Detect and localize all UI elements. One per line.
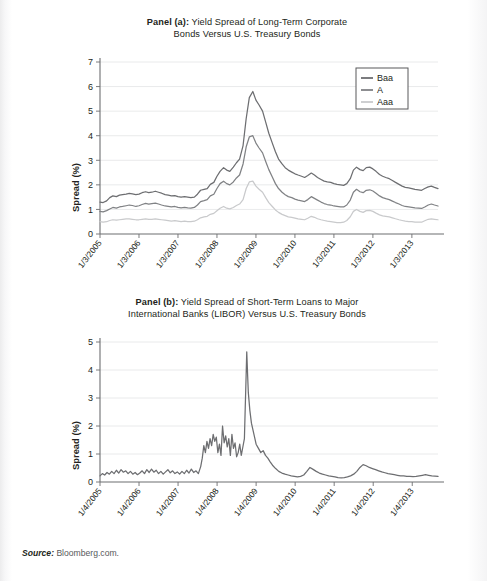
x-tick-label: 1/3/2013: [387, 238, 415, 270]
x-tick-label: 1/4/2008: [193, 486, 221, 518]
panel-a-svg: 012345671/3/20051/3/20061/3/20071/3/2008…: [0, 52, 460, 292]
y-tick-label: 3: [88, 156, 93, 166]
y-tick-label: 0: [88, 229, 93, 239]
y-tick-label: 5: [88, 337, 93, 347]
y-tick-label: 4: [88, 131, 93, 141]
panel-b-title-text1: Yield Spread of Short-Term Loans to Majo…: [178, 297, 358, 307]
panel-a-plot-area: 012345671/3/20051/3/20061/3/20071/3/2008…: [0, 52, 460, 292]
panel-a-title-line1: Panel (a): Yield Spread of Long-Term Cor…: [147, 17, 347, 27]
panel-a-title-text1: Yield Spread of Long-Term Corporate: [189, 17, 347, 27]
x-tick-label: 1/3/2007: [154, 238, 182, 270]
legend-label-a: A: [377, 85, 383, 95]
x-tick-label: 1/3/2006: [115, 238, 143, 270]
y-tick-label: 1: [88, 205, 93, 215]
series-line-libor-spread: [100, 352, 438, 478]
panel-b-title: Panel (b): Yield Spread of Short-Term Lo…: [62, 296, 432, 321]
x-tick-label: 1/3/2009: [232, 238, 260, 270]
x-tick-label: 1/4/2005: [76, 486, 104, 518]
y-tick-label: 3: [88, 393, 93, 403]
legend-label-baa: Baa: [377, 73, 393, 83]
series-line-a: [100, 136, 438, 212]
x-tick-label: 1/3/2011: [310, 238, 338, 270]
x-tick-label: 1/4/2011: [310, 486, 338, 518]
y-tick-label: 1: [88, 449, 93, 459]
y-tick-label: 6: [88, 82, 93, 92]
y-tick-label: 7: [88, 57, 93, 67]
x-tick-label: 1/3/2008: [193, 238, 221, 270]
panel-a-title-line2: Bonds Versus U.S. Treasury Bonds: [174, 29, 321, 39]
y-tick-label: 2: [88, 180, 93, 190]
panel-b-title-line1: Panel (b): Yield Spread of Short-Term Lo…: [136, 297, 359, 307]
panel-a-label: Panel (a):: [147, 17, 189, 27]
x-tick-label: 1/4/2009: [232, 486, 260, 518]
panel-b-title-line2: International Banks (LIBOR) Versus U.S. …: [128, 309, 366, 319]
panel-b-label: Panel (b):: [136, 297, 179, 307]
x-tick-label: 1/4/2010: [271, 486, 299, 518]
source-value: Bloomberg.com.: [56, 548, 119, 558]
figure-container: Panel (a): Yield Spread of Long-Term Cor…: [0, 0, 487, 581]
x-tick-label: 1/4/2007: [154, 486, 182, 518]
x-tick-label: 1/4/2013: [388, 486, 416, 518]
panel-a-title: Panel (a): Yield Spread of Long-Term Cor…: [62, 16, 432, 41]
series-line-aaa: [100, 181, 438, 223]
source-label: Source:: [22, 548, 54, 558]
panel-b-plot-area: 0123451/4/20051/4/20061/4/20071/4/20081/…: [0, 330, 460, 545]
legend-label-aaa: Aaa: [377, 97, 393, 107]
x-tick-label: 1/3/2005: [76, 238, 104, 270]
y-tick-label: 0: [88, 477, 93, 487]
page-background: Panel (a): Yield Spread of Long-Term Cor…: [0, 0, 487, 581]
y-tick-label: 4: [88, 365, 93, 375]
x-tick-label: 1/4/2012: [349, 486, 377, 518]
x-tick-label: 1/3/2012: [349, 238, 377, 270]
y-tick-label: 2: [88, 421, 93, 431]
x-tick-label: 1/3/2010: [271, 238, 299, 270]
panel-b-svg: 0123451/4/20051/4/20061/4/20071/4/20081/…: [0, 330, 460, 545]
y-tick-label: 5: [88, 106, 93, 116]
source-note: Source: Bloomberg.com.: [22, 548, 119, 558]
x-tick-label: 1/4/2006: [115, 486, 143, 518]
